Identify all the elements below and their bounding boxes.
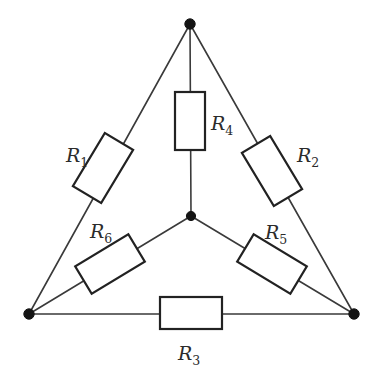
node-top[interactable] — [185, 19, 195, 29]
resistor-box-R3[interactable] — [160, 297, 222, 329]
node-bottom-left[interactable] — [24, 309, 34, 319]
resistor-box-R4[interactable] — [175, 92, 205, 150]
circuit-diagram: R1 R2 R3 R4 R5 R6 — [0, 0, 382, 376]
label-R4-subscript: 4 — [225, 123, 233, 138]
label-R5-subscript: 5 — [279, 232, 287, 247]
label-R2-subscript: 2 — [311, 155, 319, 170]
label-R6-subscript: 6 — [104, 231, 112, 246]
resistor-box-R5[interactable] — [237, 234, 307, 293]
label-R1-subscript: 1 — [80, 155, 88, 170]
label-R3-subscript: 3 — [192, 353, 200, 368]
label-R6-letter: R — [89, 220, 104, 242]
label-R3-letter: R — [177, 342, 192, 364]
circuit-canvas: R1 R2 R3 R4 R5 R6 — [0, 0, 382, 376]
label-R2: R2 — [296, 144, 319, 170]
label-R5-letter: R — [264, 221, 279, 243]
resistor-layer — [73, 92, 307, 329]
label-R4-letter: R — [210, 112, 225, 134]
label-R4: R4 — [210, 112, 233, 138]
node-center[interactable] — [186, 211, 195, 220]
label-R2-letter: R — [296, 144, 311, 166]
node-bottom-right[interactable] — [349, 309, 359, 319]
label-R3: R3 — [177, 342, 200, 368]
label-R1: R1 — [65, 144, 88, 170]
label-R6: R6 — [89, 220, 112, 246]
resistor-box-R2[interactable] — [242, 136, 302, 206]
label-R1-letter: R — [65, 144, 80, 166]
